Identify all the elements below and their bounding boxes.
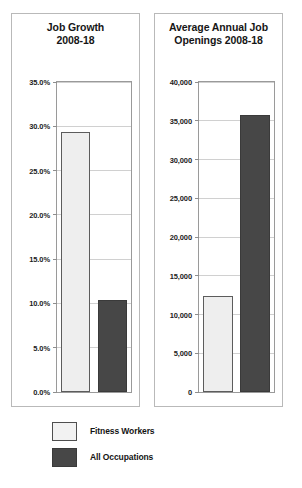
y-axis-tick-label: 10.0%: [29, 299, 50, 308]
y-axis-tick: [53, 347, 57, 348]
y-axis-tick-label: 25,000: [170, 194, 192, 203]
y-axis-tick-label: 35,000: [170, 116, 192, 125]
y-axis-tick-label: 0: [188, 388, 192, 397]
y-axis-tick-label: 20.0%: [29, 210, 50, 219]
y-axis-tick-label: 5,000: [174, 349, 192, 358]
legend-label-fitness-workers: Fitness Workers: [90, 426, 154, 436]
y-axis-tick-label: 35.0%: [29, 78, 50, 87]
y-axis-tick: [195, 353, 199, 354]
y-axis-tick: [195, 237, 199, 238]
legend-item-fitness-workers: Fitness Workers: [52, 420, 154, 442]
chart-title-line-2: 2008-18: [16, 34, 135, 47]
y-axis-tick: [53, 170, 57, 171]
y-axis-tick-label: 40,000: [170, 78, 192, 87]
y-axis-tick: [195, 198, 199, 199]
y-axis-tick: [53, 214, 57, 215]
y-axis-tick-label: 20,000: [170, 233, 192, 242]
y-axis-tick-label: 10,000: [170, 310, 192, 319]
y-axis-tick-label: 30.0%: [29, 122, 50, 131]
y-axis-tick-label: 25.0%: [29, 166, 50, 175]
chart-title-job-openings: Average Annual Job Openings 2008-18: [159, 21, 278, 47]
y-axis-tick: [53, 259, 57, 260]
y-axis-tick: [53, 126, 57, 127]
bar-job-growth-fitness-workers: [61, 132, 91, 392]
legend-swatch-all-occupations: [52, 448, 77, 467]
legend-label-all-occupations: All Occupations: [90, 452, 153, 462]
plot-area-job-growth: 0.0%5.0%10.0%15.0%20.0%25.0%30.0%35.0%: [56, 81, 132, 393]
plot-area-job-openings: 05,00010,00015,00020,00025,00030,00035,0…: [198, 81, 275, 393]
y-axis-tick-label: 5.0%: [33, 343, 50, 352]
gridline: [57, 82, 131, 83]
chart-page: Job Growth 2008-18 0.0%5.0%10.0%15.0%20.…: [0, 0, 302, 488]
chart-legend: Fitness Workers All Occupations: [52, 420, 154, 472]
bar-job-growth-all-occupations: [98, 300, 128, 392]
chart-title-line-2: Openings 2008-18: [159, 34, 278, 47]
legend-item-all-occupations: All Occupations: [52, 446, 154, 468]
y-axis-tick-label: 30,000: [170, 155, 192, 164]
y-axis-tick: [53, 82, 57, 83]
y-axis-tick: [195, 275, 199, 276]
gridline: [199, 82, 274, 83]
chart-title-line-1: Job Growth: [16, 21, 135, 34]
y-axis-tick: [195, 314, 199, 315]
bar-job-openings-all-occupations: [240, 115, 270, 392]
y-axis-tick: [195, 82, 199, 83]
y-axis-tick: [195, 392, 199, 393]
y-axis-tick-label: 0.0%: [33, 388, 50, 397]
y-axis-tick: [195, 120, 199, 121]
y-axis-tick: [53, 303, 57, 304]
y-axis-tick: [195, 159, 199, 160]
chart-title-job-growth: Job Growth 2008-18: [16, 21, 135, 47]
chart-panel-job-growth: Job Growth 2008-18 0.0%5.0%10.0%15.0%20.…: [11, 13, 140, 407]
legend-swatch-fitness-workers: [52, 422, 77, 441]
y-axis-tick-label: 15,000: [170, 271, 192, 280]
y-axis-tick: [53, 392, 57, 393]
chart-title-line-1: Average Annual Job: [159, 21, 278, 34]
y-axis-tick-label: 15.0%: [29, 255, 50, 264]
bar-job-openings-fitness-workers: [203, 296, 233, 392]
gridline: [57, 126, 131, 127]
chart-panel-job-openings: Average Annual Job Openings 2008-18 05,0…: [154, 13, 283, 407]
